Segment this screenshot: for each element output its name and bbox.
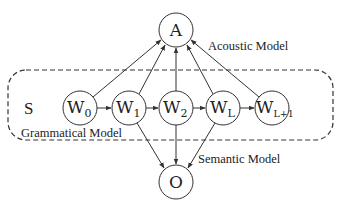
grammatical-model-label: Grammatical Model	[21, 126, 123, 140]
edge-w1-o	[137, 123, 164, 168]
diagram-svg: A W0 W1 W2 WL WL+1 O S Acoustic Model Gr…	[0, 0, 343, 201]
node-wl: WL	[206, 91, 240, 125]
node-w2: W2	[159, 91, 193, 125]
diagram-canvas: A W0 W1 W2 WL WL+1 O S Acoustic Model Gr…	[0, 0, 343, 201]
node-wl1: WL+1	[255, 91, 294, 125]
node-w0: W0	[63, 91, 97, 125]
node-o-label: O	[169, 172, 183, 192]
node-a-label: A	[169, 20, 183, 40]
node-o: O	[159, 165, 193, 199]
node-w1: W1	[112, 91, 146, 125]
semantic-model-label: Semantic Model	[198, 152, 281, 166]
edge-w0-a	[93, 40, 161, 97]
acoustic-model-label: Acoustic Model	[208, 39, 289, 53]
sentence-s-label: S	[24, 99, 33, 118]
node-a: A	[159, 13, 193, 47]
